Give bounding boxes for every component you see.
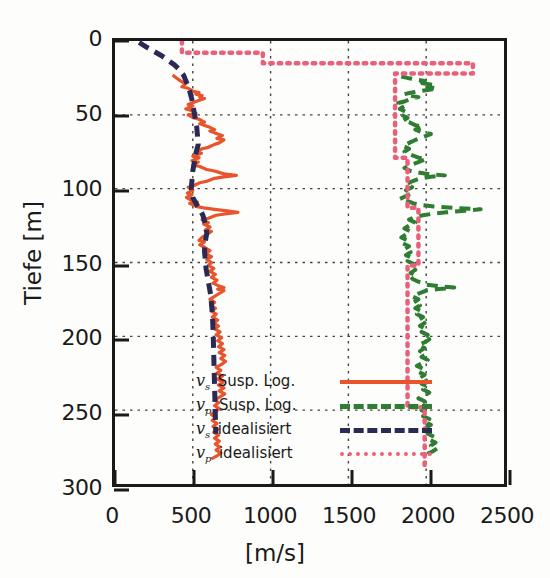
x-tick-label-1500: 1500	[322, 503, 376, 528]
legend-row: vs idealisiert	[196, 419, 436, 443]
legend-label: vp idealisiert	[196, 443, 293, 464]
x-tick-label-500: 500	[171, 503, 212, 528]
legend-line-sample	[340, 380, 432, 384]
legend-row: vp idealisiert	[196, 443, 436, 467]
legend-label: vs idealisiert	[196, 419, 291, 440]
legend-row: vs Susp. Log.	[196, 371, 436, 395]
y-tick-300	[114, 489, 129, 492]
legend-label: vs Susp. Log.	[196, 371, 295, 392]
x-tick-1000	[272, 470, 275, 485]
legend-label: vp Susp. Log.	[196, 395, 296, 416]
y-tick-label-300: 300	[40, 475, 102, 500]
x-tick-label-0: 0	[105, 503, 119, 528]
y-tick-label-50: 50	[40, 100, 102, 125]
y-tick-0	[114, 40, 129, 43]
y-tick-250	[114, 414, 129, 417]
y-tick-200	[114, 339, 129, 342]
velocity-depth-chart: Tiefe [m] [m/s] 050010001500200025000501…	[0, 0, 550, 578]
y-tick-50	[114, 114, 129, 117]
chart-legend: vs Susp. Log.vp Susp. Log.vs idealisiert…	[196, 371, 436, 467]
x-tick-label-2000: 2000	[401, 503, 455, 528]
y-tick-label-0: 0	[40, 26, 102, 51]
x-tick-0	[114, 470, 117, 485]
x-axis-title: [m/s]	[0, 540, 550, 566]
legend-line-sample	[340, 428, 432, 433]
y-tick-label-100: 100	[40, 175, 102, 200]
y-tick-label-250: 250	[40, 400, 102, 425]
legend-row: vp Susp. Log.	[196, 395, 436, 419]
x-tick-2500	[509, 470, 512, 485]
legend-line-sample	[340, 452, 432, 456]
x-tick-label-1000: 1000	[243, 503, 297, 528]
x-tick-500	[193, 470, 196, 485]
y-tick-100	[114, 189, 129, 192]
x-tick-1500	[351, 470, 354, 485]
y-tick-label-200: 200	[40, 325, 102, 350]
y-tick-150	[114, 264, 129, 267]
y-tick-label-150: 150	[40, 250, 102, 275]
x-tick-2000	[430, 470, 433, 485]
legend-line-sample	[340, 404, 432, 409]
x-tick-label-2500: 2500	[480, 503, 534, 528]
